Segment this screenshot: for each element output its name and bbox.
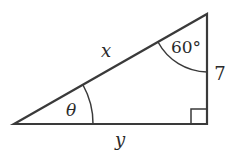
vertical-side-label: 7 [214,63,225,84]
top-angle-label: 60° [171,37,201,57]
triangle [14,14,207,124]
triangle-diagram: x y 7 60° θ [0,0,248,158]
left-angle-label: θ [66,100,76,120]
hypotenuse-label: x [101,40,111,61]
left-angle-arc [83,85,93,124]
base-label: y [114,129,126,150]
right-angle-marker [191,109,207,124]
